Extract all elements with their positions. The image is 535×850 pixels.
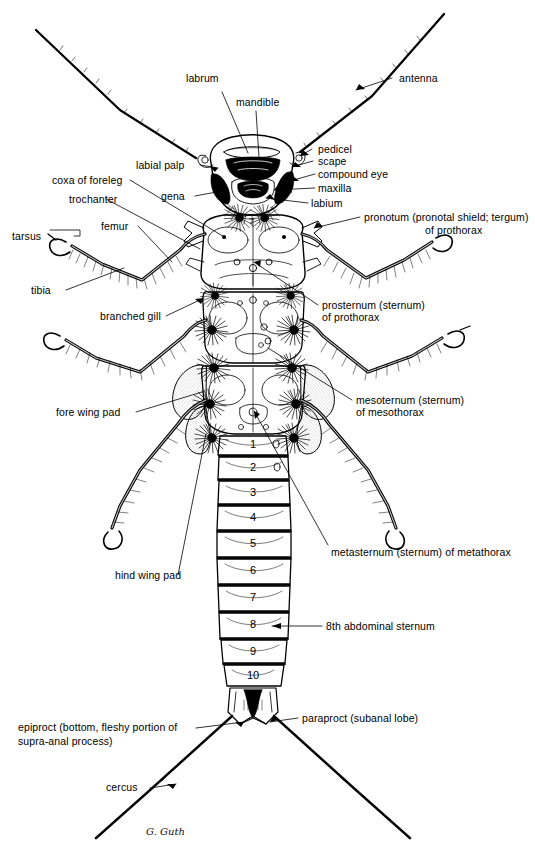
label-epiproct-line2: supra-anal process): [18, 735, 113, 748]
label-coxa-of-foreleg: coxa of foreleg: [52, 174, 122, 187]
abdominal-segment-number-1: 1: [242, 438, 264, 450]
label-trochanter: trochanter: [69, 193, 117, 206]
figure-canvas: labrum mandible antenna pedicel scape co…: [0, 0, 535, 850]
label-maxilla: maxilla: [318, 182, 351, 195]
label-compound-eye: compound eye: [318, 168, 388, 181]
terminalia: [228, 688, 278, 724]
label-prosternum-line2: of prothorax: [322, 311, 379, 324]
leader-mandible: [256, 111, 259, 157]
label-branched-gill: branched gill: [100, 310, 161, 323]
leader-tarsus: [50, 230, 80, 236]
label-metasternum: metasternum (sternum) of metathorax: [331, 546, 511, 559]
abdominal-segment-number-7: 7: [242, 591, 264, 603]
abdominal-segment-number-4: 4: [242, 511, 264, 523]
head: [198, 135, 305, 226]
abdominal-segment-number-6: 6: [242, 564, 264, 576]
label-tibia: tibia: [31, 284, 51, 297]
leader-coxa: [130, 180, 226, 238]
foreleg-left: [48, 234, 205, 289]
label-antenna: antenna: [399, 72, 438, 85]
abdominal-segment-number-9: 9: [242, 645, 264, 657]
abdominal-segment-number-10: 10: [242, 669, 264, 681]
midleg-right: [301, 320, 470, 380]
label-labium: labium: [311, 197, 343, 210]
label-gena: gena: [161, 190, 185, 203]
abdominal-segment-number-2: 2: [242, 461, 264, 473]
label-epiproct-line1: epiproct (bottom, fleshy portion of: [18, 721, 177, 734]
label-fore-wing-pad: fore wing pad: [56, 406, 120, 419]
label-labial-palp: labial palp: [136, 159, 184, 172]
artist-signature: G. Guth: [146, 826, 185, 837]
label-pronotum-line2: of prothorax: [425, 224, 482, 237]
label-hind-wing-pad: hind wing pad: [115, 569, 181, 582]
label-labrum: labrum: [186, 72, 219, 85]
leader-tibia: [66, 268, 124, 290]
antenna-left: [36, 29, 197, 158]
abdominal-segment-number-8: 8: [242, 618, 264, 630]
label-mesosternum-line2: of mesothorax: [356, 406, 424, 419]
cercus-right: [274, 715, 411, 838]
abdominal-segment-number-3: 3: [242, 486, 264, 498]
label-tarsus: tarsus: [12, 230, 41, 243]
label-cercus: cercus: [106, 781, 138, 794]
midleg-left: [44, 320, 206, 380]
label-mandible: mandible: [236, 96, 279, 109]
label-femur: femur: [101, 220, 128, 233]
abdominal-segment-number-5: 5: [242, 537, 264, 549]
label-8th-abdominal-sternum: 8th abdominal sternum: [326, 620, 435, 633]
label-pronotum-line1: pronotum (pronotal shield; tergum): [364, 211, 528, 224]
leader-hind-wing-pad: [178, 434, 206, 575]
label-paraproct: paraproct (subanal lobe): [302, 712, 418, 725]
leader-prosternum: [254, 262, 318, 305]
prothorax: [184, 215, 322, 289]
foreleg-right: [302, 234, 452, 288]
label-scape: scape: [318, 155, 347, 168]
